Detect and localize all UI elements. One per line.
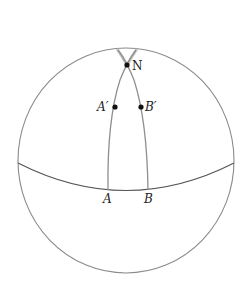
point-a-prime	[112, 104, 117, 109]
label-n: N	[132, 59, 143, 73]
sphere-outline	[18, 48, 234, 273]
label-b-prime: B′	[144, 100, 157, 114]
label-a-prime: A′	[96, 100, 109, 114]
sphere-diagram: N A′ B′ A B	[0, 0, 252, 290]
point-n	[124, 62, 129, 67]
equator	[18, 163, 234, 191]
label-b: B	[143, 192, 153, 206]
point-b-prime	[138, 104, 143, 109]
label-a: A	[102, 192, 112, 206]
